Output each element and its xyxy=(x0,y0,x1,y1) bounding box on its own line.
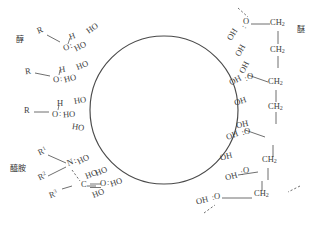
ether-5-ch2: CH2 xyxy=(262,155,277,164)
alcohol-3-r: R xyxy=(24,106,30,115)
central-circle xyxy=(90,36,238,184)
label-ether: 醚 xyxy=(297,26,305,34)
alcohol-3-h: H xyxy=(57,99,63,108)
hydroxyl-left-5: HO xyxy=(63,110,76,119)
alcohol-3-hbond: : xyxy=(59,110,61,118)
ether-6-ch2: CH2 xyxy=(254,189,269,198)
ether-4-ch2: CH2 xyxy=(268,102,283,111)
ether-dashed-continuations xyxy=(204,8,300,213)
ether-3-ch2: CH2 xyxy=(268,77,283,86)
label-alcohol: 醇 xyxy=(16,36,24,44)
hydroxyl-left-6: HO xyxy=(73,95,87,106)
alcohol-2-r: R xyxy=(24,67,31,76)
ether-3-o: O xyxy=(244,127,250,136)
label-amide: 醯胺 xyxy=(10,165,26,173)
hydroxyl-left-7: HO xyxy=(71,122,84,132)
ether-4-o: O xyxy=(243,166,249,175)
ether-1-ch2: CH2 xyxy=(270,18,285,27)
ether-5-o: O xyxy=(214,192,220,201)
ether-2-o: O xyxy=(247,72,253,81)
ether-1-o: O xyxy=(243,17,249,26)
diagram-canvas: 醇 醯胺 醚 R H O : HO HO R H O : HO HO R H O… xyxy=(0,0,315,229)
alcohol-2-h: H xyxy=(58,65,65,74)
amide-n-c-dashed-bond xyxy=(72,170,80,181)
alcohol-3-o: O xyxy=(52,110,58,119)
ether-2-ch2: CH2 xyxy=(270,45,285,54)
amide-c: C xyxy=(81,180,87,189)
